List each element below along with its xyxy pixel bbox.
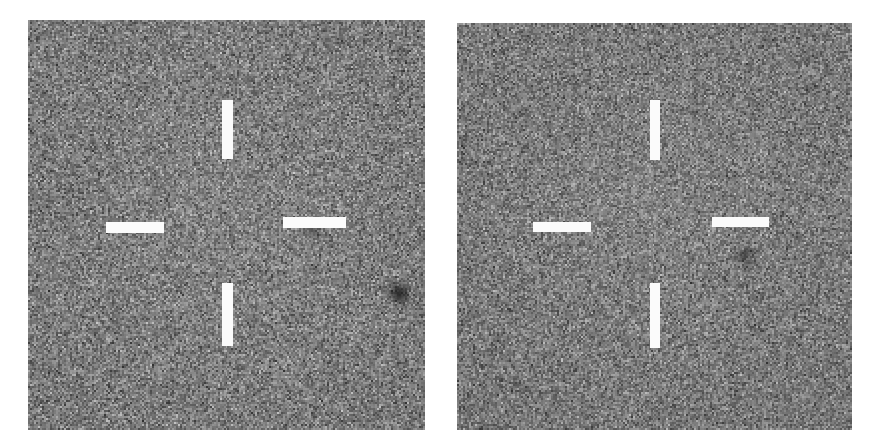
noise-texture — [28, 20, 425, 430]
noise-texture — [457, 23, 852, 430]
right-cutout — [457, 23, 852, 430]
left-cutout — [28, 20, 425, 430]
figure-image-pair — [0, 0, 880, 446]
